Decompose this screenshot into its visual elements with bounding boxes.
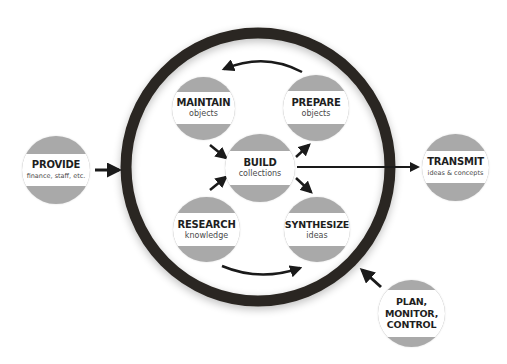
- node-prepare-subtitle: objects: [302, 109, 331, 119]
- node-transmit-title: TRANSMIT: [427, 156, 484, 168]
- node-maintain-subtitle: objects: [189, 109, 218, 119]
- node-provide-title: PROVIDE: [32, 159, 80, 171]
- arrow-build-to-prepare: [296, 145, 309, 157]
- arrow-prepare-to-maintain: [224, 61, 302, 72]
- node-plan-monitor-control: PLAN, MONITOR, CONTROL: [378, 280, 445, 347]
- arrow-maintain-to-build: [210, 145, 226, 158]
- node-maintain-title: MAINTAIN: [176, 97, 230, 109]
- node-transmit-subtitle: ideas & concepts: [428, 168, 484, 178]
- arrow-research-to-build: [210, 177, 226, 190]
- node-prepare-title: PREPARE: [291, 97, 340, 109]
- node-synthesize-subtitle: ideas: [306, 231, 327, 241]
- node-synthesize-title: SYNTHESIZE: [285, 219, 349, 231]
- node-research-title: RESEARCH: [177, 219, 235, 231]
- node-build: BUILD collections: [225, 134, 295, 202]
- node-plan-title: PLAN, MONITOR, CONTROL: [385, 296, 438, 331]
- node-research-subtitle: knowledge: [185, 231, 228, 241]
- node-build-title: BUILD: [243, 157, 276, 169]
- node-synthesize: SYNTHESIZE ideas: [284, 197, 350, 262]
- node-provide: PROVIDE finance, staff, etc.: [22, 136, 90, 204]
- arrow-plan-to-ring: [362, 270, 381, 287]
- node-research: RESEARCH knowledge: [173, 197, 240, 262]
- node-maintain: MAINTAIN objects: [172, 77, 235, 140]
- node-prepare: PREPARE objects: [283, 75, 349, 141]
- node-build-subtitle: collections: [239, 169, 282, 179]
- arrow-build-to-synthesize: [296, 178, 311, 192]
- diagram-canvas: MAINTAIN objects PREPARE objects BUILD c…: [0, 0, 507, 364]
- arrow-research-to-synthesize: [222, 266, 300, 275]
- node-provide-subtitle: finance, staff, etc.: [27, 171, 86, 181]
- node-transmit: TRANSMIT ideas & concepts: [422, 134, 489, 201]
